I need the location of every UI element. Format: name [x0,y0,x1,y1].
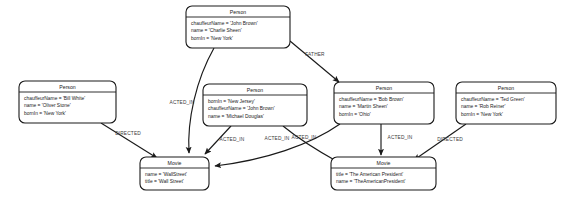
edge-label: ACTED_IN [170,100,195,105]
graph-edge: DIRECTED [414,124,466,160]
node-label: Movie [168,160,182,166]
nodes-layer: PersonchauffeurName = 'John Brown'name =… [19,6,556,190]
graph-edge: ACTED_IN [215,124,340,166]
node-property: name = 'WallStreet' [145,172,187,177]
node-property: bornIn = 'Ohio' [339,112,371,117]
node-label: Person [498,85,515,91]
edge-line [290,41,339,82]
node-label: Person [230,9,247,15]
graph-edge: DIRECTED [101,123,157,158]
node-label: Movie [377,160,391,166]
node-property: name = 'Michael Douglas' [208,114,264,119]
node-label: Person [247,87,264,93]
edge-label: ACTED_IN [388,135,413,140]
node-property: name = 'TheAmericanPresident' [336,179,405,184]
node-property: bornIn = 'New York' [191,36,233,41]
graph-node[interactable]: Movietitle = 'The American President'nam… [331,157,436,190]
node-property: bornIn = 'New York' [24,111,66,116]
graph-node[interactable]: PersonbornIn = 'New Jersey'chauffeurName… [203,84,307,126]
node-label: Person [59,84,76,90]
edge-line [283,126,338,162]
node-property: chauffeurName = 'John Brown' [208,106,275,111]
edge-line [101,123,157,158]
graph-node[interactable]: PersonchauffeurName = 'Bill White'name =… [19,81,116,123]
node-property: name = 'Charlie Sheen' [191,28,242,33]
node-property: title = 'The American President' [336,172,403,177]
edge-label: ACTED_IN [220,137,245,142]
node-property: chauffeurName = 'Bob Brown' [339,97,404,102]
graph-node[interactable]: PersonchauffeurName = 'John Brown'name =… [186,6,290,48]
graph-edge: ACTED_IN [283,126,338,162]
edge-label: FATHER [305,52,325,57]
node-property: chauffeurName = 'John Brown' [191,21,258,26]
node-property: bornIn = 'New York' [461,112,503,117]
node-property: chauffeurName = 'Ted Green' [461,97,525,102]
node-property: name = 'Rob Reiner' [461,104,505,109]
node-property: bornIn = 'New Jersey' [208,99,255,104]
graph-node[interactable]: PersonchauffeurName = 'Ted Green'name = … [456,82,556,124]
graph-node[interactable]: Moviename = 'WallStreet'title = 'Wall St… [140,157,209,190]
node-property: title = 'Wall Street' [145,179,184,184]
node-property: name = 'Oliver Stone' [24,103,71,108]
edge-line [215,124,340,166]
edge-label: DIRECTED [437,137,463,142]
edge-line [414,124,466,160]
edge-label: ACTED_IN [265,136,290,141]
graph-edge: FATHER [290,41,339,82]
graph-edge: ACTED_IN [381,124,413,155]
node-property: name = 'Martin Sheen' [339,104,388,109]
graph-edge: ACTED_IN [205,126,245,154]
node-property: chauffeurName = 'Bill White' [24,96,85,101]
graph-diagram-canvas: ACTED_INFATHERDIRECTEDACTED_INACTED_INAC… [0,0,572,205]
node-label: Person [376,85,393,91]
graph-node[interactable]: PersonchauffeurName = 'Bob Brown'name = … [334,82,434,124]
edge-label: DIRECTED [115,131,141,136]
